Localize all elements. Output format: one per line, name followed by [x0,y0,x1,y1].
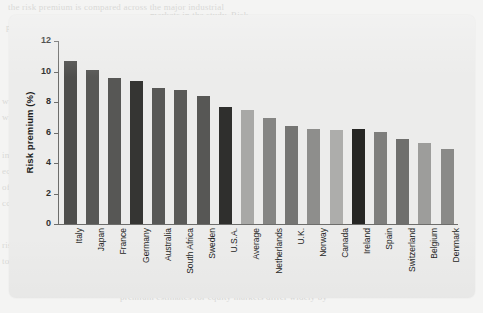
category-label-slot: Sweden [192,228,214,298]
x-axis-category-label: Italy [74,212,84,228]
bar [285,126,298,224]
y-axis-tick-label: 10 [41,66,51,77]
bar-slot [81,41,103,224]
category-label-slot: France [103,228,125,298]
y-axis-title: Risk premium (%) [23,41,37,224]
x-axis-category-label: Average [251,196,261,228]
x-axis-category-labels: ItalyJapanFranceGermanyAustraliaSouth Af… [59,228,458,298]
y-axis-tick-label: 4 [46,157,51,168]
category-label-slot: Canada [325,228,347,298]
category-label-slot: U.K. [281,228,303,298]
x-axis-category-label: Germany [140,193,150,228]
x-axis-category-label: U.K. [295,211,305,228]
category-label-slot: Switzerland [392,228,414,298]
category-label-slot: South Africa [170,228,192,298]
y-axis-tick-label: 8 [46,96,51,107]
chart-figure-card: Risk premium (%) 024681012 ItalyJapanFra… [9,15,475,298]
category-label-slot: Norway [303,228,325,298]
bar [64,61,77,224]
x-axis-category-label-text: Denmark [451,228,461,262]
y-axis-tick: 8 [54,102,58,103]
category-label-slot: Australia [148,228,170,298]
y-axis-tick-label: 12 [41,35,51,46]
category-label-slot: Netherlands [259,228,281,298]
y-axis-tick: 6 [54,133,58,134]
x-axis-category-label: Australia [162,195,172,228]
x-axis-category-label: Netherlands [273,182,283,228]
y-axis-tick: 10 [54,72,58,73]
category-label-slot: Germany [126,228,148,298]
category-label-slot: U.S.A. [214,228,236,298]
x-axis-category-label: U.S.A. [229,203,239,228]
bar [86,70,99,224]
y-axis-tick-label: 6 [46,127,51,138]
y-axis-tick: 2 [54,194,58,195]
bar-slot [325,41,347,224]
x-axis-category-label: Belgium [428,197,438,228]
y-axis-tick: 0 [54,224,58,225]
bar-slot [347,41,369,224]
scanned-page-background: the risk premium is compared across the … [0,0,483,313]
y-axis-tick-label: 0 [46,218,51,229]
x-axis-category-label: Ireland [362,202,372,228]
x-axis-category-label: South Africa [184,182,194,228]
bar-slot [214,41,236,224]
bar-slot [103,41,125,224]
category-label-slot: Italy [59,228,81,298]
bar-slot [59,41,81,224]
category-label-slot: Ireland [347,228,369,298]
y-axis-tick: 12 [54,41,58,42]
y-axis-tick: 4 [54,163,58,164]
x-axis-category-label: Denmark [451,194,461,228]
x-axis-category-label: France [118,202,128,228]
y-axis-title-text: Risk premium (%) [25,92,36,174]
x-axis-category-label: Spain [384,206,394,228]
category-label-slot: Japan [81,228,103,298]
category-label-slot: Spain [369,228,391,298]
x-axis-category-label: Switzerland [406,184,416,228]
bar-slot [303,41,325,224]
category-label-slot: Belgium [414,228,436,298]
x-axis-category-label: Sweden [207,197,217,228]
y-axis-tick-label: 2 [46,188,51,199]
category-label-slot: Average [236,228,258,298]
x-axis-category-label: Canada [340,198,350,228]
bar-slot [281,41,303,224]
category-label-slot: Denmark [436,228,458,298]
x-axis-category-label: Norway [317,199,327,228]
x-axis-category-label: Japan [96,205,106,228]
bar-slot [369,41,391,224]
